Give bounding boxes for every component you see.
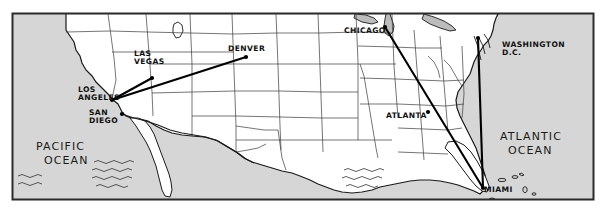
city-label-miami: MIAMI [484,185,513,194]
city-dot-washington-dc[interactable] [476,36,480,40]
city-label-chicago: CHICAGO [344,26,386,35]
map-canvas: LOSANGELESLASVEGASSANDIEGODENVERCHICAGOW… [0,0,606,212]
city-dot-san-diego[interactable] [120,112,124,116]
city-label-atlanta: ATLANTA [386,111,427,120]
ocean-label-pacific-ocean: PACIFICOCEAN [36,140,89,167]
city-label-denver: DENVER [228,44,265,53]
city-dot-las-vegas[interactable] [150,76,154,80]
route-map: LOSANGELESLASVEGASSANDIEGODENVERCHICAGOW… [0,0,606,212]
city-dot-denver[interactable] [244,55,248,59]
